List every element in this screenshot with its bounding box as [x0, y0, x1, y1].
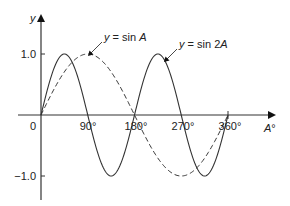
y-axis-arrow-icon — [37, 14, 45, 22]
origin-label: 0 — [30, 120, 36, 132]
annotation-sin-a-text: y = sin A — [103, 31, 147, 43]
x-tick-label-360: 360° — [219, 120, 242, 132]
sine-graph: y A° 1.0 −1.0 0 90° 180° 270° 360° y = s… — [0, 0, 290, 206]
y-axis-label: y — [29, 12, 37, 24]
x-tick-label-270: 270° — [172, 120, 195, 132]
leader-line-sin-a — [90, 42, 102, 54]
axes — [18, 14, 276, 200]
annotation-sin-2a-text: y = sin 2A — [178, 38, 228, 50]
y-tick-label-minus1: −1.0 — [14, 170, 36, 182]
annotation-sin-2a: y = sin 2A — [164, 38, 228, 62]
x-axis-label: A° — [263, 122, 276, 134]
annotation-sin-a: y = sin A — [88, 31, 147, 56]
leader-line-sin-2a — [166, 49, 177, 60]
x-tick-label-90: 90° — [80, 120, 97, 132]
y-tick-label-1: 1.0 — [21, 48, 36, 60]
x-axis-arrow-icon — [268, 111, 276, 119]
x-tick-label-180: 180° — [125, 120, 148, 132]
